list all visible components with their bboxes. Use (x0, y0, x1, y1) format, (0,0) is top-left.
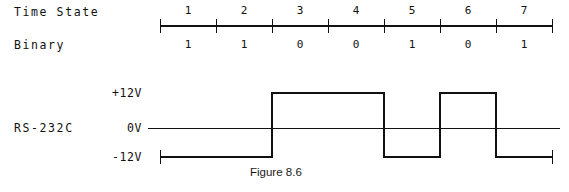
figure-container: Time State Binary RS-232C +12V 0V -12V 1… (0, 0, 569, 192)
time-axis (160, 19, 553, 33)
figure-drawing (0, 0, 569, 192)
waveform-plot (148, 93, 560, 164)
figure-caption: Figure 8.6 (250, 166, 302, 178)
rs232c-waveform (160, 93, 552, 157)
